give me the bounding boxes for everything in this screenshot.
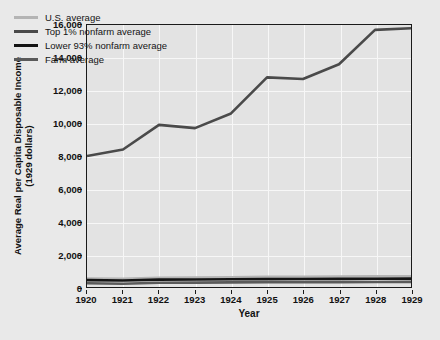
legend-item-label: Farm average <box>45 54 104 65</box>
x-axis-tick-label: 1926 <box>293 294 314 305</box>
legend-item: Top 1% nonfarm average <box>14 24 214 38</box>
x-axis-tick-mark <box>158 290 159 294</box>
x-axis-tick-mark <box>195 290 196 294</box>
y-axis-tick-mark <box>78 90 82 91</box>
y-axis-tick-mark <box>78 123 82 124</box>
legend-color-swatch <box>14 16 38 19</box>
x-axis-tick-label: 1925 <box>257 294 278 305</box>
y-axis-tick-mark <box>78 222 82 223</box>
x-axis-tick-label: 1929 <box>401 294 422 305</box>
legend-item: U.S. average <box>14 10 214 24</box>
x-axis-title: Year <box>86 308 412 319</box>
y-axis-tick-mark <box>78 255 82 256</box>
legend-color-swatch <box>14 30 38 33</box>
y-axis-tick-label: 12,000 <box>36 85 82 96</box>
chart-legend: U.S. averageTop 1% nonfarm averageLower … <box>14 10 214 66</box>
legend-color-swatch <box>14 44 38 47</box>
legend-item-label: U.S. average <box>45 12 100 23</box>
y-axis-tick-mark <box>78 288 82 289</box>
y-axis-title-line1: Average Real per Capita Disposable Incom… <box>12 57 23 255</box>
x-axis-tick-label: 1922 <box>148 294 169 305</box>
x-axis-tick-mark <box>376 290 377 294</box>
y-axis-tick-label: 4,000 <box>36 217 82 228</box>
series-line <box>87 282 411 284</box>
x-axis-tick-label: 1923 <box>184 294 205 305</box>
x-axis-tick-mark <box>267 290 268 294</box>
y-axis-tick-label: 0 <box>36 283 82 294</box>
x-axis-tick-label: 1920 <box>75 294 96 305</box>
y-axis-tick-mark <box>78 156 82 157</box>
x-axis-tick-mark <box>303 290 304 294</box>
x-axis-tick-mark <box>122 290 123 294</box>
x-axis-tick-label: 1921 <box>112 294 133 305</box>
y-axis-tick-mark <box>78 189 82 190</box>
x-axis-tick-label: 1928 <box>365 294 386 305</box>
x-axis-tick-mark <box>340 290 341 294</box>
legend-color-swatch <box>14 58 38 61</box>
legend-item: Farm average <box>14 52 214 66</box>
y-axis-tick-label: 6,000 <box>36 184 82 195</box>
series-line <box>87 279 411 281</box>
x-axis-tick-mark <box>86 290 87 294</box>
y-axis-tick-label: 10,000 <box>36 118 82 129</box>
x-axis-tick-label: 1924 <box>220 294 241 305</box>
y-axis-tick-label: 2,000 <box>36 250 82 261</box>
legend-item-label: Lower 93% nonfarm average <box>45 40 167 51</box>
legend-item: Lower 93% nonfarm average <box>14 38 214 52</box>
chart-figure: Average Real per Capita Disposable Incom… <box>0 0 440 340</box>
x-axis-tick-label: 1927 <box>329 294 350 305</box>
x-axis-tick-mark <box>412 290 413 294</box>
legend-item-label: Top 1% nonfarm average <box>45 26 151 37</box>
y-axis-tick-label: 8,000 <box>36 151 82 162</box>
x-axis-tick-labels: 1920192119221923192419251926192719281929 <box>86 290 412 304</box>
x-axis-tick-mark <box>231 290 232 294</box>
